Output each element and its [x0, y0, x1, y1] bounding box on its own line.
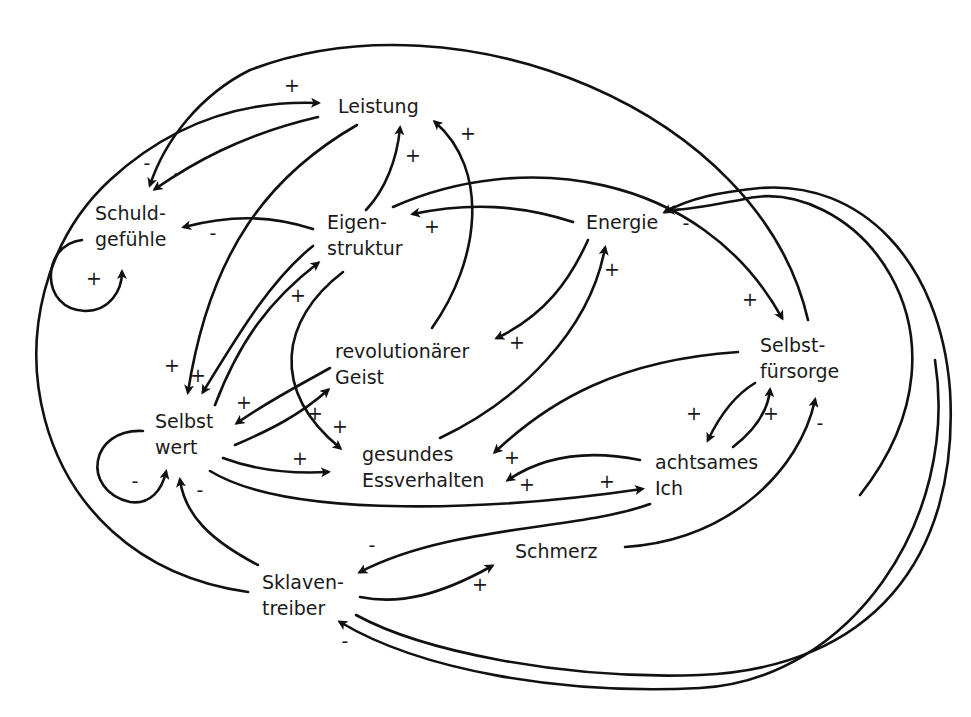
node-revolutionaerer-geist: revolutionärerGeist: [335, 340, 469, 388]
positive-polarity-label: +: [86, 267, 102, 289]
positive-polarity-label: +: [284, 74, 300, 96]
negative-polarity-label: -: [683, 212, 690, 234]
positive-polarity-label: +: [686, 402, 702, 424]
node-eigenstruktur: Eigen-struktur: [327, 211, 403, 259]
edge-sklaventreiber-to-energie: [356, 187, 951, 675]
edge-achtsames-ich-to-sklaventreiber: [360, 504, 650, 572]
edge-sklaventreiber-to-selbstwert: [180, 480, 258, 565]
positive-polarity-label: +: [292, 447, 308, 469]
node-schmerz: Schmerz: [515, 540, 598, 562]
positive-polarity-label: +: [190, 364, 206, 386]
node-achtsames-ich: achtsamesIch: [655, 451, 758, 499]
node-label-line: Energie: [586, 211, 658, 233]
node-energie: Energie: [586, 211, 658, 233]
node-selbstfuersorge: Selbst-fürsorge: [760, 334, 839, 382]
node-label-line: struktur: [327, 237, 403, 259]
positive-polarity-label: +: [763, 402, 779, 424]
node-sklaventreiber: Sklaven-treiber: [262, 571, 344, 619]
positive-polarity-label: +: [307, 402, 323, 424]
node-label-line: Schmerz: [515, 540, 598, 562]
negative-polarity-label: -: [132, 470, 139, 492]
node-label-line: Essverhalten: [362, 469, 484, 491]
node-label-line: Selbst-: [760, 334, 825, 356]
negative-polarity-label: -: [210, 222, 217, 244]
edge-selbstwert-to-gesundes-essverhalten: [223, 458, 328, 472]
positive-polarity-label: +: [509, 331, 525, 353]
polarity-labels-layer: +---+++++++++-++++++--++++--+-: [86, 74, 823, 652]
node-label-line: Geist: [335, 366, 384, 388]
node-selbstwert: Selbstwert: [155, 410, 213, 458]
causal-loop-diagram: +---+++++++++-++++++--++++--+- LeistungS…: [0, 0, 971, 717]
positive-polarity-label: +: [460, 122, 476, 144]
positive-polarity-label: +: [504, 446, 520, 468]
positive-polarity-label: +: [405, 144, 421, 166]
negative-polarity-label: -: [817, 412, 824, 434]
node-label-line: Eigen-: [327, 211, 387, 233]
node-label-line: fürsorge: [760, 360, 839, 382]
node-label-line: revolutionärer: [335, 340, 469, 362]
positive-polarity-label: +: [332, 415, 348, 437]
node-label-line: Sklaven-: [262, 571, 344, 593]
node-label-line: gesundes: [362, 443, 453, 465]
positive-polarity-label: +: [604, 258, 620, 280]
edge-eigenstruktur-to-selbstwert: [203, 246, 313, 392]
positive-polarity-label: +: [290, 284, 306, 306]
node-gesundes-essverhalten: gesundesEssverhalten: [362, 443, 484, 491]
negative-polarity-label: -: [342, 630, 349, 652]
positive-polarity-label: +: [424, 215, 440, 237]
edge-selbstfuersorge-to-sklaventreiber: [340, 360, 939, 689]
node-label-line: Schuld-: [95, 202, 166, 224]
edge-selbstfuersorge-to-achtsames-ich: [708, 383, 755, 440]
positive-polarity-label: +: [164, 354, 180, 376]
negative-polarity-label: -: [174, 162, 181, 184]
node-label-line: Selbst: [155, 410, 213, 432]
edge-eigenstruktur-to-leistung: [366, 128, 400, 210]
node-label-line: achtsames: [655, 451, 758, 473]
node-label-line: treiber: [262, 597, 326, 619]
node-label-line: wert: [155, 436, 198, 458]
node-label-line: Leistung: [338, 95, 419, 117]
negative-polarity-label: -: [369, 534, 376, 556]
negative-polarity-label: -: [197, 479, 204, 501]
positive-polarity-label: +: [236, 391, 252, 413]
edge-schmerz-to-selbstfuersorge: [625, 400, 815, 547]
positive-polarity-label: +: [472, 573, 488, 595]
positive-polarity-label: +: [519, 473, 535, 495]
positive-polarity-label: +: [742, 288, 758, 310]
positive-polarity-label: +: [599, 470, 615, 492]
node-label-line: Ich: [655, 477, 683, 499]
node-label-line: gefühle: [95, 228, 167, 250]
node-leistung: Leistung: [338, 95, 419, 117]
negative-polarity-label: -: [144, 152, 151, 174]
node-schuldgefuehle: Schuld-gefühle: [95, 202, 167, 250]
